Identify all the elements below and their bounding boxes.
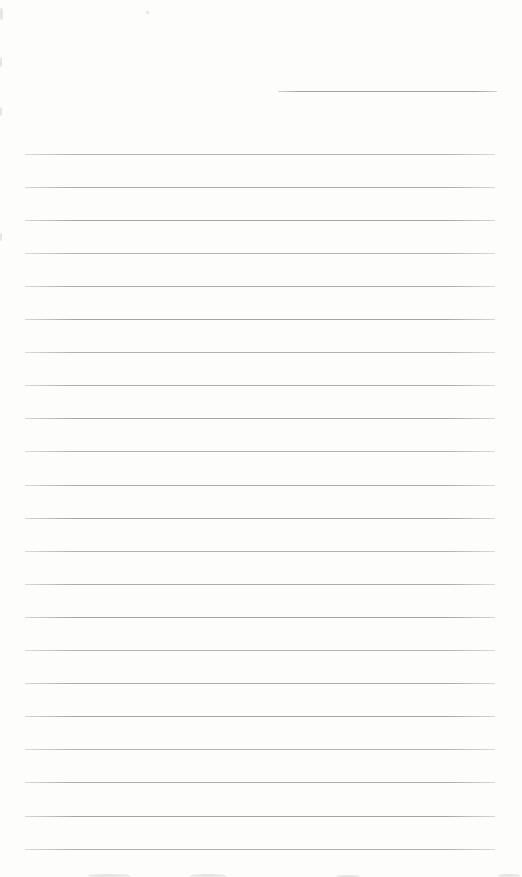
scan-speck	[146, 11, 149, 14]
scan-speck	[0, 57, 2, 67]
scan-artifact-layer	[0, 0, 522, 877]
scan-speck	[0, 233, 2, 241]
scan-speck	[0, 107, 2, 116]
notepad-page	[0, 0, 522, 877]
scan-speck	[0, 8, 3, 20]
